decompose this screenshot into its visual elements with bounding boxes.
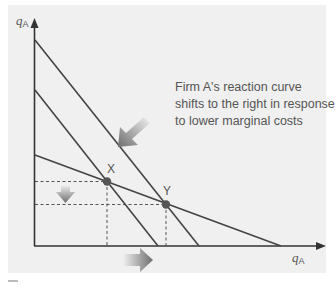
shift-arrow-diagonal-icon: [118, 117, 150, 147]
shift-arrow-right-icon: [123, 248, 153, 272]
firm-a-reaction-curve-shifted: [35, 40, 199, 246]
x-axis-arrowhead-icon: [316, 242, 326, 250]
firm-b-reaction-curve: [35, 155, 281, 246]
point-x-label: X: [107, 162, 115, 176]
firm-a-reaction-curve-original: [35, 90, 158, 246]
shift-arrow-down-icon: [56, 186, 75, 203]
y-axis-arrowhead-icon: [31, 18, 39, 28]
equilibrium-point-x: [103, 177, 111, 185]
point-y-label: Y: [163, 184, 171, 198]
shift-annotation: Firm A's reaction curve shifts to the ri…: [175, 79, 335, 130]
y-axis-label: qA: [16, 13, 29, 29]
equilibrium-point-y: [162, 200, 170, 208]
y-axis: [31, 18, 39, 246]
dashed-guides: [35, 182, 166, 247]
cropped-caption-glyph: [8, 280, 18, 287]
x-axis: [34, 242, 326, 250]
x-axis-label: qA: [292, 250, 305, 266]
